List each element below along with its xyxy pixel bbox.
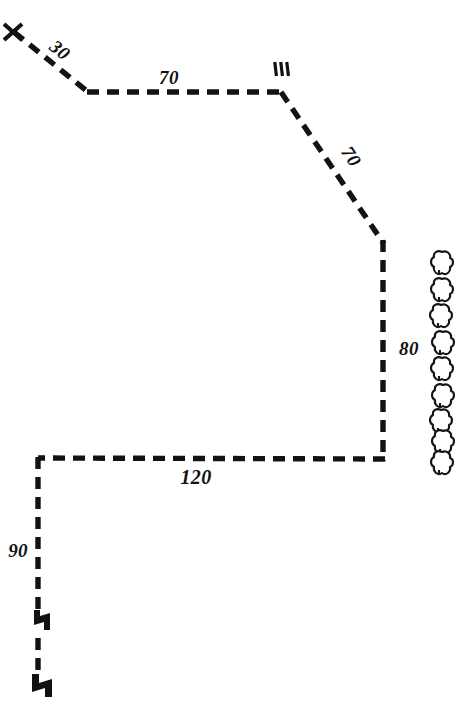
tree-symbol xyxy=(431,357,453,380)
tree-symbol xyxy=(432,430,454,453)
tree-symbol xyxy=(431,451,453,474)
boundary-segment-70-diagonal xyxy=(281,92,384,244)
boundary-segment-30 xyxy=(14,32,88,92)
dimension-label-70-north: 70 xyxy=(159,67,179,88)
dimension-label-90: 90 xyxy=(8,540,28,561)
survey-plat-figure: 30 70 70 80 120 90 xyxy=(0,0,464,702)
tree-symbol xyxy=(432,331,454,354)
boundary-segment-120 xyxy=(38,458,385,459)
tree-symbol xyxy=(431,278,453,301)
boundary-monument-mark xyxy=(273,62,290,76)
dimension-label-80: 80 xyxy=(399,338,419,359)
tree-symbol-column xyxy=(430,251,454,474)
jog-marker-upper xyxy=(34,610,50,630)
x-corner-mark xyxy=(4,24,22,40)
tree-symbol xyxy=(430,304,452,327)
plat-drawing-surface: 30 70 70 80 120 90 xyxy=(0,0,464,702)
dimension-label-group: 30 70 70 80 120 90 xyxy=(8,35,419,561)
tree-symbol xyxy=(432,384,454,407)
dimension-label-70-diagonal: 70 xyxy=(337,142,366,170)
tree-symbol xyxy=(430,409,452,432)
dimension-label-120: 120 xyxy=(180,466,211,488)
jog-marker-lower xyxy=(32,674,52,697)
boundary-line-group xyxy=(14,32,385,676)
tree-symbol xyxy=(431,251,453,274)
